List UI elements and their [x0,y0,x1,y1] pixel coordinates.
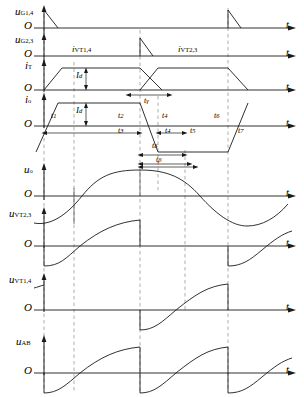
annotation-iVT14: iVT1,4 [72,45,91,54]
taxis-uG14: t [286,19,289,30]
taxis-uAB: t [286,364,289,375]
interval-t7: t7 [238,127,243,135]
interval-t2: t2 [118,112,123,120]
taxis-iT: t [286,81,289,92]
interval-t4a: t4 [162,112,167,120]
origin-uG14: O [24,20,32,31]
annotation-iVT23: iVT2,3 [178,45,197,54]
interval-t1: t1 [51,112,56,120]
interval-t4b: t4 [165,127,170,135]
trace-io [34,93,296,152]
interval-tdelta: tδ [152,142,157,150]
axis-label-uo: uo [24,164,33,175]
trace-uG14 [34,5,296,34]
interval-t6: t6 [214,112,219,120]
origin-uAB: O [24,365,32,376]
axis-label-uAB: uAB [16,336,31,347]
origin-uVT14: O [24,302,32,313]
taxis-uVT23: t [286,237,289,248]
trace-uo [34,163,296,226]
axis-label-uG14: uG1,4 [15,6,33,17]
waveform-canvas [0,0,304,397]
interval-tgamma: tγ [144,97,149,105]
origin-uG23: O [24,48,32,59]
taxis-uG23: t [286,47,289,58]
axis-label-uVT23: uVT2,3 [9,208,31,219]
origin-uVT23: O [24,238,32,249]
interval-t5: t5 [190,127,195,135]
taxis-io: t [286,117,289,128]
taxis-uo: t [286,187,289,198]
origin-iT: O [24,82,32,93]
time-marker-lines [44,8,228,392]
trace-uAB [34,335,296,393]
axis-label-iT: iT [25,60,32,71]
interval-tbeta: tβ [156,156,161,164]
origin-uo: O [24,188,32,199]
axis-label-io: io [25,94,31,105]
trace-uVT23 [34,207,296,266]
trace-iT [34,59,296,92]
annotation-Id-iT: Id [76,71,82,80]
origin-io: O [24,118,32,129]
axis-label-uVT14: uVT1,4 [9,274,31,285]
trace-uVT14 [34,273,296,330]
taxis-uVT14: t [286,301,289,312]
axis-label-uG23: uG2,3 [15,34,33,45]
waveform-diagram: uG1,4 O t uG2,3 O t iT O t iVT1,4 iVT2,3… [0,0,304,397]
interval-t3: t3 [118,127,123,135]
annotation-Id-io: Id [76,106,82,115]
